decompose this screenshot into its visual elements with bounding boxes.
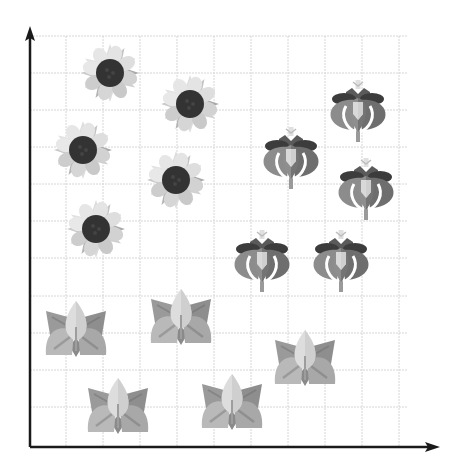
tulip-icon [331, 80, 386, 142]
sunflower-icon [43, 110, 122, 189]
series-tulip [235, 80, 394, 292]
tulip-icon [339, 158, 394, 220]
sunflower-icon [150, 64, 229, 143]
lotus-icon [202, 374, 262, 430]
series-lotus [46, 289, 335, 434]
series-sunflower [43, 33, 229, 268]
sunflower-icon [136, 140, 215, 219]
data-markers [43, 33, 393, 434]
sunflower-icon [56, 189, 135, 268]
scatter-chart [0, 0, 455, 476]
lotus-icon [275, 330, 335, 386]
lotus-icon [151, 289, 211, 345]
tulip-icon [264, 127, 319, 189]
tulip-icon [235, 230, 290, 292]
tulip-icon [314, 230, 369, 292]
sunflower-icon [70, 33, 149, 112]
lotus-icon [88, 378, 148, 434]
lotus-icon [46, 301, 106, 357]
